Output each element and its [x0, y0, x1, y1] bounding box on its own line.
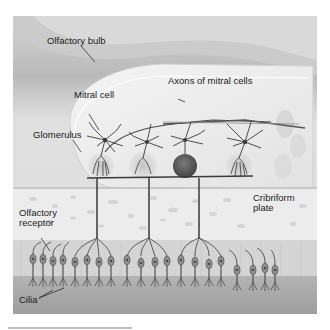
label-glomerulus: Glomerulus — [33, 130, 82, 140]
label-olfactory-bulb: Olfactory bulb — [47, 36, 106, 46]
label-mitral-cell: Mitral cell — [74, 90, 114, 100]
caption-divider — [8, 327, 132, 329]
label-olfactory-receptor-line2: receptor — [19, 218, 54, 228]
label-cilia: Cilia — [19, 295, 37, 305]
olfactory-diagram: Olfactory bulb Mitral cell Axons of mitr… — [13, 16, 317, 314]
diagram-illustration — [13, 16, 317, 314]
label-axons-of-mitral-cells: Axons of mitral cells — [168, 76, 252, 86]
label-cribriform-plate-line2: plate — [253, 203, 274, 213]
